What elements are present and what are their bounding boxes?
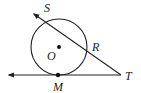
label-s: S — [44, 1, 50, 15]
label-r: R — [91, 40, 100, 54]
point-o-dot — [57, 45, 61, 49]
secant-line-ts — [34, 14, 121, 75]
geometry-diagram: S R O M T — [0, 0, 141, 93]
point-m-dot — [56, 73, 60, 77]
label-o: O — [47, 49, 56, 63]
label-t: T — [125, 69, 133, 83]
label-m: M — [52, 80, 64, 93]
